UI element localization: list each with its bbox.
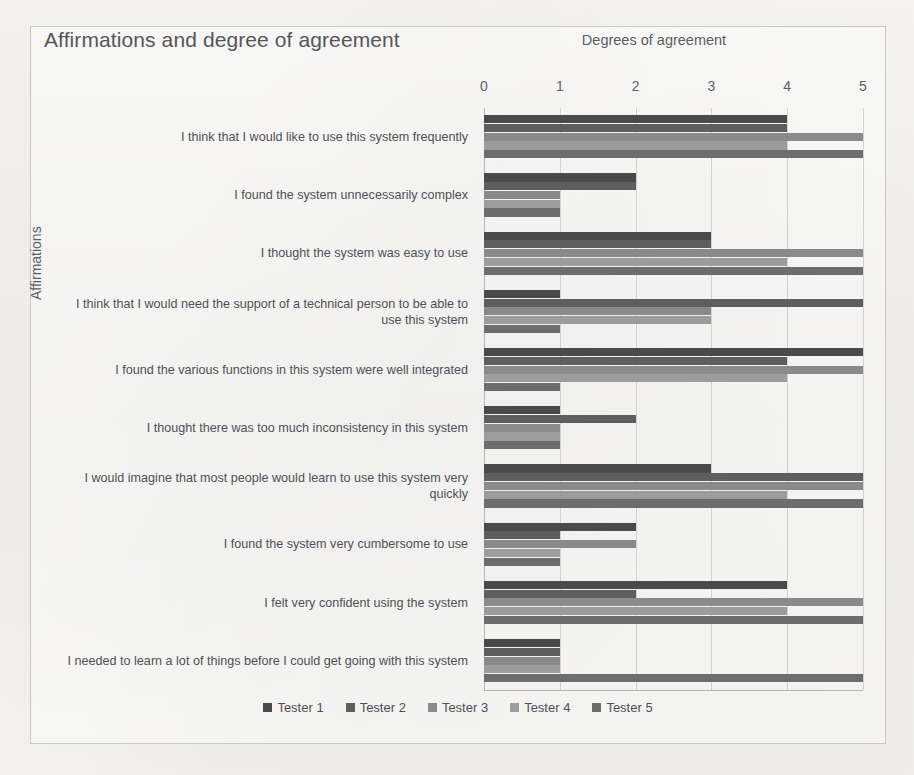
bar-slot [484,249,863,258]
bar[interactable] [484,307,711,315]
bar[interactable] [484,299,863,307]
x-axis-baseline [484,690,863,691]
bar-slot [484,374,863,383]
bar[interactable] [484,607,787,615]
bar[interactable] [484,432,560,440]
legend-swatch-icon [263,703,272,712]
bar-slot [484,639,863,648]
bar-slot [484,491,863,500]
bar[interactable] [484,191,560,199]
x-tick-label: 4 [783,78,791,94]
y-category-label: I found the system unnecessarily complex [60,166,476,224]
y-category-label: I found the system very cumbersome to us… [60,515,476,573]
bar[interactable] [484,182,636,190]
bar[interactable] [484,415,636,423]
legend-label: Tester 2 [360,700,406,715]
bar-slot [484,523,863,532]
bar[interactable] [484,267,863,275]
bar[interactable] [484,258,787,266]
y-category-label: I thought the system was easy to use [60,224,476,282]
bar-slot [484,441,863,450]
bar-group [484,515,863,573]
bar[interactable] [484,482,863,490]
bar[interactable] [484,464,711,472]
bar[interactable] [484,115,787,123]
y-axis-category-labels: I think that I would like to use this sy… [60,108,476,690]
bar[interactable] [484,531,560,539]
bar[interactable] [484,232,711,240]
bar[interactable] [484,357,787,365]
bar[interactable] [484,499,863,507]
bar[interactable] [484,590,636,598]
bar[interactable] [484,598,863,606]
bar-slot [484,115,863,124]
legend-item[interactable]: Tester 3 [428,700,488,715]
bar-group [484,108,863,166]
bar[interactable] [484,540,636,548]
bar[interactable] [484,616,863,624]
legend-swatch-icon [346,703,355,712]
bar[interactable] [484,581,787,589]
bar[interactable] [484,639,560,647]
bar[interactable] [484,133,863,141]
chart-title: Affirmations and degree of agreement [44,28,400,52]
bar[interactable] [484,141,787,149]
bar[interactable] [484,173,636,181]
legend-item[interactable]: Tester 1 [263,700,323,715]
x-tick-label: 1 [556,78,564,94]
bar-slot [484,499,863,508]
x-tick-label: 5 [859,78,867,94]
bar[interactable] [484,316,711,324]
bar-slot [484,598,863,607]
bar[interactable] [484,674,863,682]
bar[interactable] [484,406,560,414]
bar-group [484,632,863,690]
y-category-label: I think that I would like to use this sy… [60,108,476,166]
legend-item[interactable]: Tester 4 [510,700,570,715]
bar[interactable] [484,657,560,665]
bar-slot [484,540,863,549]
legend-label: Tester 1 [277,700,323,715]
bar-slot [484,200,863,209]
bar[interactable] [484,325,560,333]
bar[interactable] [484,424,560,432]
y-category-label: I found the various functions in this sy… [60,341,476,399]
x-tick-label: 3 [707,78,715,94]
bar[interactable] [484,383,560,391]
bar[interactable] [484,441,560,449]
x-tick-label: 0 [480,78,488,94]
bar-slot [484,124,863,133]
legend-item[interactable]: Tester 2 [346,700,406,715]
bar-slot [484,531,863,540]
bar[interactable] [484,249,863,257]
bar[interactable] [484,549,560,557]
x-tick-label: 2 [632,78,640,94]
bar-slot [484,133,863,142]
bar-group [484,341,863,399]
bar[interactable] [484,290,560,298]
bar[interactable] [484,648,560,656]
bar-slot [484,558,863,567]
bar-slot [484,482,863,491]
bar-slot [484,665,863,674]
bar-slot [484,549,863,558]
bar[interactable] [484,150,863,158]
bar[interactable] [484,208,560,216]
bar[interactable] [484,348,863,356]
bar-slot [484,316,863,325]
bar-slot [484,150,863,159]
legend-item[interactable]: Tester 5 [592,700,652,715]
bar[interactable] [484,665,560,673]
legend-swatch-icon [510,703,519,712]
bar[interactable] [484,374,787,382]
bar-group [484,283,863,341]
bar[interactable] [484,473,863,481]
bar[interactable] [484,558,560,566]
bar[interactable] [484,523,636,531]
bar[interactable] [484,240,711,248]
bar[interactable] [484,124,787,132]
bar-group [484,574,863,632]
bar[interactable] [484,366,863,374]
bar[interactable] [484,200,560,208]
bar[interactable] [484,491,787,499]
